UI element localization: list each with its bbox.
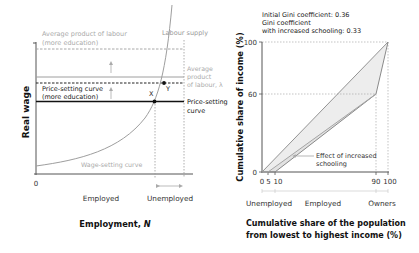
left-y-axis-label: Real wage [21,86,31,138]
x-tick-90: 90 [372,178,381,186]
point-x-marker [153,100,157,104]
left-chart: Real wage Labour supply Average product … [21,5,228,229]
left-x-axis-label-var: N [144,219,151,229]
unemployed-label: Unemployed [147,194,193,203]
right-x-axis-label-1: Cumulative share of the population [246,219,406,228]
point-x-label: X [149,90,154,98]
employed-label: Employed [83,194,119,203]
average-product-more-education-label-1: Average product of labour [42,30,127,38]
price-setting-more-education-label-1: Price-setting curve [42,85,103,93]
average-product-more-education-label-2: (more education) [42,39,98,47]
x-tick-100: 100 [383,178,396,186]
gini-new-label-2: with increased schooling: 0.33 [262,27,361,35]
price-setting-label-2: curve [187,107,205,115]
effect-label-2: schooling [316,160,347,168]
right-y-axis-label: Cumulative share of income (%) [235,32,245,182]
labour-supply-label: Labour supply [162,29,208,37]
left-origin-label: 0 [34,180,38,188]
gini-initial-label: Initial Gini coefficient: 0.36 [262,11,350,19]
point-y-label: Y [165,85,170,93]
unemployed-region-label: Unemployed [246,199,292,208]
y-tick-0: 0 [253,169,257,177]
average-product-label-1: Average [187,65,213,73]
owners-region-label: Owners [368,199,396,208]
x-tick-5: 5 [266,178,270,186]
wage-setting-label: Wage-setting curve [81,161,142,169]
effect-label-1: Effect of increased [316,152,377,160]
x-tick-10: 10 [274,178,283,186]
employed-region-label: Employed [305,199,341,208]
x-tick-0: 0 [260,178,264,186]
left-x-axis-label: Employment, N [79,219,150,229]
figure: Real wage Labour supply Average product … [0,0,419,253]
left-x-axis-label-main: Employment, [79,219,143,229]
right-chart: Initial Gini coefficient: 0.36 Gini coef… [235,11,406,240]
average-product-label-2: product [187,73,212,81]
right-x-axis-label-2: from lowest to highest income (%) [246,231,402,240]
y-tick-100: 100 [244,39,257,47]
price-setting-label-1: Price-setting [187,98,228,106]
average-product-label-3: of labour, λ [187,81,223,88]
y-tick-60: 60 [248,91,257,99]
price-setting-more-education-label-2: (more education) [42,93,98,101]
gini-new-label-1: Gini coefficient [262,19,311,27]
